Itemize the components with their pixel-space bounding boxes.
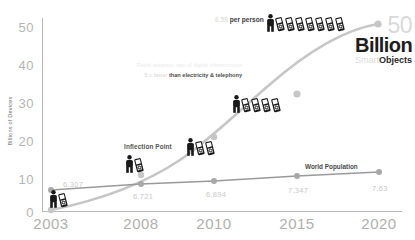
callout-objects: SmartObjects — [340, 55, 412, 66]
person-icon — [125, 155, 134, 173]
callout-objects-dim: Smart — [355, 55, 379, 65]
icon-group-2003 — [49, 190, 68, 208]
growth-rate-note: Rapid adoption rate of digital infrastru… — [62, 60, 242, 80]
mobile-phone-icon — [315, 17, 325, 32]
iot-growth-chart: Billions of Devices 50 40 30 20 10 0 200… — [0, 0, 415, 240]
mobile-phone-icon — [305, 17, 315, 32]
world-population-label: World Population — [305, 163, 358, 170]
inflection-point-label: Inflection Point — [124, 143, 172, 150]
population-label-2008: 6.721 — [133, 192, 153, 201]
growth-note-multiplier: 5 x faster — [144, 72, 167, 78]
population-label-2003: 6.307 — [63, 180, 83, 189]
icon-group-2008 — [125, 155, 144, 173]
callout-number: 50 — [340, 14, 412, 36]
person-icon — [186, 138, 195, 156]
mobile-phone-icon — [241, 98, 251, 113]
fifty-billion-callout: 50 Billion SmartObjects — [340, 14, 412, 66]
icon-group-2009 — [186, 138, 215, 156]
growth-note-line1: Rapid adoption rate of digital infrastru… — [62, 60, 242, 70]
population-label-2015: 7.347 — [288, 186, 308, 195]
per-person-suffix: per person — [230, 16, 264, 23]
callout-objects-word: Objects — [379, 55, 412, 65]
growth-note-line2: 5 x faster than electricity & telephony — [62, 70, 242, 80]
mobile-phone-icon — [261, 98, 271, 113]
person-icon — [232, 95, 241, 113]
mobile-phone-icon — [205, 141, 215, 156]
mobile-phone-icon — [325, 17, 335, 32]
callout-unit: Billion — [340, 36, 412, 55]
population-point-2015 — [294, 173, 300, 179]
device-point-2015 — [293, 90, 300, 97]
mobile-phone-icon — [295, 17, 305, 32]
population-point-2010 — [211, 178, 217, 184]
per-person-value: 6.58 — [215, 16, 228, 23]
icon-group-2015 — [266, 14, 345, 32]
mobile-phone-icon — [58, 193, 68, 208]
icon-group-2010 — [232, 95, 281, 113]
growth-note-comparison: than electricity & telephony — [169, 72, 242, 78]
population-point-2020 — [376, 169, 382, 175]
population-point-2008 — [138, 181, 144, 187]
person-icon — [49, 190, 58, 208]
mobile-phone-icon — [134, 158, 144, 173]
person-icon — [266, 14, 275, 32]
population-label-2020: 7.63 — [372, 184, 388, 193]
mobile-phone-icon — [275, 17, 285, 32]
mobile-phone-icon — [251, 98, 261, 113]
mobile-phone-icon — [335, 17, 345, 32]
mobile-phone-icon — [271, 98, 281, 113]
mobile-phone-icon — [195, 141, 205, 156]
population-label-2010: 6.894 — [206, 190, 226, 199]
per-person-annotation: 6.58 per person — [215, 16, 264, 23]
mobile-phone-icon — [285, 17, 295, 32]
